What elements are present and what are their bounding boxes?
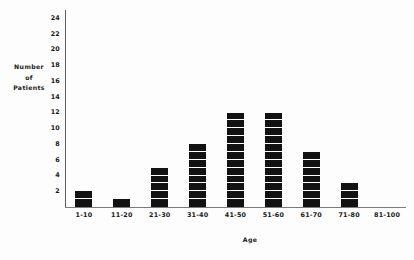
y-axis-tick-label: 20 [44,45,60,53]
x-axis-tick-labels: 1-1011-2021-3031-4041-5051-6061-7071-808… [65,211,406,225]
y-axis-tick-label: 8 [44,140,60,148]
bar-unit-block [227,191,244,199]
y-axis-tick-label: 16 [44,77,60,85]
bar-unit-block [341,183,358,191]
bar-unit-block [227,113,244,121]
y-axis-tick-label: 10 [44,124,60,132]
x-axis-title: Age [0,236,414,243]
bar-unit-block [303,199,320,207]
bar-unit-block [75,191,92,199]
x-axis-tick-label: 81-100 [364,211,410,219]
bar-unit-block [265,144,282,152]
bar-unit-block [227,136,244,144]
x-axis-line [65,207,406,208]
bar-unit-block [265,120,282,128]
y-axis-tick-label: 4 [44,171,60,179]
bar-unit-block [265,199,282,207]
bar-unit-block [265,136,282,144]
bar-unit-block [189,199,206,207]
bar-unit-block [227,144,244,152]
bar-unit-block [227,160,244,168]
y-axis-tick-label: 24 [44,14,60,22]
bar-unit-block [189,144,206,152]
bar-unit-block [265,152,282,160]
bar [151,168,168,207]
bar [113,199,130,207]
bar-unit-block [341,191,358,199]
bar-unit-block [189,191,206,199]
bar-unit-block [265,191,282,199]
bar-unit-block [227,199,244,207]
bar-unit-block [151,183,168,191]
y-axis-tick-labels: 24681012141618202224 [44,0,60,260]
bar-unit-block [227,128,244,136]
bar [303,152,320,207]
bar-unit-block [303,176,320,184]
bar-unit-block [151,168,168,176]
y-axis-tick-label: 12 [44,108,60,116]
bar-unit-block [189,183,206,191]
histogram-chart: Number of Patients 24681012141618202224 … [0,0,414,260]
bar [265,112,282,207]
bar-unit-block [227,120,244,128]
bar-unit-block [151,199,168,207]
bar-unit-block [265,183,282,191]
y-axis-tick-label: 6 [44,156,60,164]
bar [75,191,92,207]
bar-unit-block [151,176,168,184]
bar-unit-block [265,113,282,121]
bar-unit-block [75,199,92,207]
bar-unit-block [303,183,320,191]
bar-unit-block [303,168,320,176]
bar-unit-block [303,160,320,168]
bar-unit-block [151,191,168,199]
bar-unit-block [189,168,206,176]
y-axis-tick-label: 22 [44,30,60,38]
bar-unit-block [227,176,244,184]
bar-unit-block [189,176,206,184]
y-axis-tick-label: 2 [44,187,60,195]
bar-unit-block [303,152,320,160]
bar [341,183,358,207]
bar-unit-block [341,199,358,207]
bar-unit-block [227,183,244,191]
bar-unit-block [189,160,206,168]
y-axis-tick-label: 14 [44,93,60,101]
bar-unit-block [265,176,282,184]
bar-unit-block [227,152,244,160]
bar-unit-block [227,168,244,176]
bar-unit-block [265,128,282,136]
y-axis-tick-label: 18 [44,61,60,69]
bar-unit-block [303,191,320,199]
bar-unit-block [113,199,130,207]
bar-unit-block [189,152,206,160]
bar-unit-block [265,160,282,168]
plot-area [65,10,406,207]
bar [189,144,206,207]
bar [227,112,244,207]
bar-unit-block [265,168,282,176]
